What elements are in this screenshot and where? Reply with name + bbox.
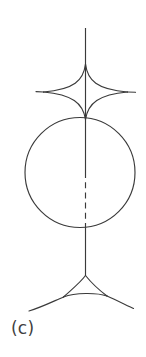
deltoid-arm-right	[107, 296, 134, 309]
astroid-arc-lower-right	[86, 92, 128, 120]
figure-panel: (c)	[0, 0, 146, 357]
astroid-arc-upper-left	[44, 64, 86, 92]
astroid-arc-upper-right	[86, 64, 128, 92]
astroid-arc-lower-left	[44, 92, 86, 120]
figure-drawing	[0, 0, 146, 357]
panel-label: (c)	[11, 318, 34, 338]
middle-circle	[25, 118, 135, 228]
deltoid-arm-left	[29, 297, 64, 311]
deltoid-arc-bottom	[64, 293, 108, 297]
